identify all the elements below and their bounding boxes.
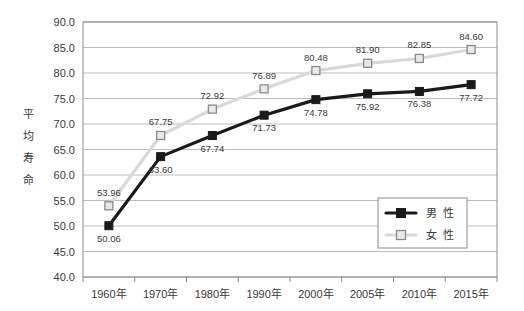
legend-label: 男 性 — [426, 206, 456, 220]
data-label: 67.75 — [149, 116, 173, 127]
legend-marker-swatch — [397, 231, 406, 240]
x-tick-label: 1990年 — [246, 287, 281, 300]
y-tick-label: 60.0 — [54, 169, 75, 181]
data-point-marker — [105, 202, 113, 210]
data-label: 76.89 — [252, 70, 276, 81]
data-label: 84.60 — [459, 31, 483, 42]
legend-label: 女 性 — [426, 228, 456, 242]
data-point-marker — [260, 85, 268, 93]
x-tick-label: 1970年 — [143, 287, 178, 300]
data-label: 74.78 — [304, 107, 328, 118]
data-label: 81.90 — [356, 44, 380, 55]
y-tick-label: 45.0 — [54, 246, 75, 258]
data-label: 53.96 — [97, 187, 121, 198]
x-tick-label: 1980年 — [195, 287, 230, 300]
data-point-marker — [415, 87, 423, 95]
y-axis-title-char: 命 — [23, 173, 34, 187]
y-tick-label: 75.0 — [54, 93, 75, 105]
chart-legend: 男 性女 性 — [378, 198, 467, 248]
data-label: 76.38 — [407, 98, 431, 109]
x-tick-label: 1960年 — [91, 287, 126, 300]
data-label: 71.73 — [252, 122, 276, 133]
data-label: 72.92 — [200, 90, 224, 101]
legend-marker-swatch — [397, 209, 406, 218]
data-point-marker — [364, 90, 372, 98]
life-expectancy-line-chart: 40.045.050.055.060.065.070.075.080.085.0… — [0, 0, 524, 311]
data-label: 63.60 — [149, 164, 173, 175]
chart-background — [0, 0, 524, 311]
y-tick-label: 85.0 — [54, 42, 75, 54]
x-tick-label: 2000年 — [298, 287, 333, 300]
y-tick-label: 55.0 — [54, 195, 75, 207]
x-tick-label: 2010年 — [402, 287, 437, 300]
data-point-marker — [208, 105, 216, 113]
y-tick-label: 65.0 — [54, 144, 75, 156]
data-point-marker — [312, 96, 320, 104]
data-label: 82.85 — [407, 39, 431, 50]
data-point-marker — [157, 131, 165, 139]
data-point-marker — [415, 54, 423, 62]
chart-container: 40.045.050.055.060.065.070.075.080.085.0… — [0, 0, 524, 311]
data-point-marker — [467, 46, 475, 54]
data-point-marker — [260, 111, 268, 119]
y-tick-label: 90.0 — [54, 16, 75, 28]
data-point-marker — [467, 81, 475, 89]
y-axis-title-char: 寿 — [23, 151, 34, 165]
data-point-marker — [364, 59, 372, 67]
x-tick-label: 2005年 — [350, 287, 385, 300]
y-tick-label: 80.0 — [54, 67, 75, 79]
y-tick-label: 40.0 — [54, 271, 75, 283]
data-point-marker — [312, 67, 320, 75]
x-tick-label: 2015年 — [453, 287, 488, 300]
y-axis-title-char: 均 — [23, 130, 34, 143]
data-label: 75.92 — [356, 101, 380, 112]
data-point-marker — [208, 132, 216, 140]
data-label: 50.06 — [97, 233, 121, 244]
data-label: 77.72 — [459, 92, 483, 103]
y-tick-label: 50.0 — [54, 220, 75, 232]
y-axis-title-char: 平 — [23, 108, 34, 121]
y-tick-label: 70.0 — [54, 118, 75, 130]
data-label: 80.48 — [304, 52, 328, 63]
data-label: 67.74 — [200, 143, 224, 154]
data-point-marker — [157, 153, 165, 161]
data-point-marker — [105, 222, 113, 230]
